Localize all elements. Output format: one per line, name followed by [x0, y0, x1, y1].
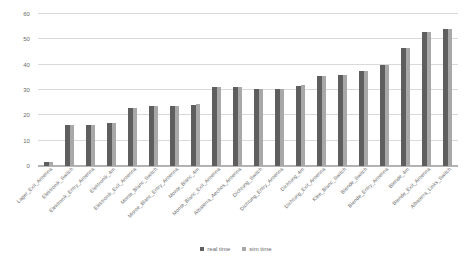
bar-sim-time[interactable] — [301, 85, 306, 166]
bar-sim-time[interactable] — [175, 106, 180, 166]
legend-item[interactable]: real time — [200, 246, 230, 252]
x-tick-label: Dichtung_Exit_Antenna — [282, 166, 325, 209]
y-tick-label: 30 — [23, 87, 30, 93]
x-tick-label: Lager_Exit_Antenna — [15, 166, 53, 204]
legend-swatch-icon — [200, 247, 204, 251]
bar-sim-time[interactable] — [259, 89, 264, 166]
bar-sim-time[interactable] — [70, 125, 75, 166]
bar-sim-time[interactable] — [238, 87, 243, 166]
bar-sim-time[interactable] — [112, 123, 117, 166]
bar-sim-time[interactable] — [322, 76, 327, 166]
legend-label: real time — [207, 246, 230, 252]
legend-item[interactable]: sim time — [242, 246, 271, 252]
legend-label: sim time — [249, 246, 271, 252]
bar-group[interactable] — [437, 14, 458, 166]
plot-area — [38, 14, 458, 166]
bar-sim-time[interactable] — [406, 48, 411, 166]
bar-group[interactable] — [143, 14, 164, 166]
bar-group[interactable] — [332, 14, 353, 166]
bar-group[interactable] — [269, 14, 290, 166]
bar-group[interactable] — [59, 14, 80, 166]
y-tick-label: 60 — [23, 11, 30, 17]
x-tick-label: Blende_Exit_Antenna — [391, 166, 431, 206]
y-tick-label: 50 — [23, 36, 30, 42]
y-axis-tick-labels: 0102030405060 — [0, 14, 34, 166]
bar-sim-time[interactable] — [154, 106, 159, 166]
bar-group[interactable] — [290, 14, 311, 166]
bar-sim-time[interactable] — [196, 104, 201, 166]
bar-sim-time[interactable] — [91, 125, 96, 166]
bar-sim-time[interactable] — [133, 108, 138, 166]
y-tick-label: 0 — [27, 163, 30, 169]
bar-group[interactable] — [227, 14, 248, 166]
chart-legend: real timesim time — [0, 246, 472, 252]
y-tick-label: 10 — [23, 138, 30, 144]
bar-group[interactable] — [416, 14, 437, 166]
x-axis-tick-labels: Lager_Exit_AntennaElektronik_SwitchElekt… — [38, 166, 458, 228]
bar-group[interactable] — [80, 14, 101, 166]
x-tick-label: Dichtung_Entry_Antenna — [238, 166, 284, 212]
bar-chart: 0102030405060 Lager_Exit_AntennaElektron… — [0, 0, 472, 262]
legend-swatch-icon — [242, 247, 246, 251]
bar-group[interactable] — [101, 14, 122, 166]
bar-group[interactable] — [164, 14, 185, 166]
y-tick-label: 40 — [23, 62, 30, 68]
x-tick-label: Monte_Blanc_Switch — [119, 166, 158, 205]
bar-group[interactable] — [122, 14, 143, 166]
bar-group[interactable] — [248, 14, 269, 166]
y-tick-label: 20 — [23, 112, 30, 118]
bar-sim-time[interactable] — [448, 29, 453, 166]
bar-sim-time[interactable] — [280, 89, 285, 166]
bar-group[interactable] — [38, 14, 59, 166]
bar-group[interactable] — [395, 14, 416, 166]
bar-group[interactable] — [353, 14, 374, 166]
bar-group[interactable] — [374, 14, 395, 166]
bar-sim-time[interactable] — [385, 65, 390, 166]
bar-group[interactable] — [311, 14, 332, 166]
x-tick-label: Albaterra_Links_Switch — [408, 166, 451, 209]
bar-sim-time[interactable] — [217, 87, 222, 166]
bar-sim-time[interactable] — [364, 71, 369, 166]
bar-group[interactable] — [206, 14, 227, 166]
bar-sim-time[interactable] — [427, 32, 432, 166]
x-tick-label: Blende_Entry_Antenna — [346, 166, 389, 209]
bar-group[interactable] — [185, 14, 206, 166]
bar-groups — [38, 14, 458, 166]
bar-sim-time[interactable] — [343, 75, 348, 166]
